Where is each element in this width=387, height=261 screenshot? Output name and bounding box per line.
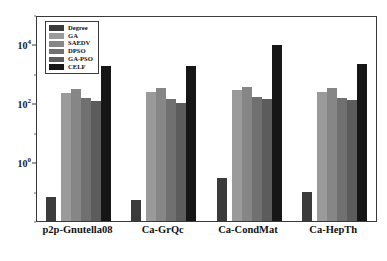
bar-dpso-ca-condmat [252, 97, 262, 221]
bar-saedv-ca-condmat [242, 87, 252, 221]
x-group-label-p2p-gnutella08: p2p-Gnutella08 [42, 224, 112, 235]
bar-degree-ca-grqc [131, 200, 141, 221]
bar-ga-p2p-gnutella08 [61, 93, 71, 221]
legend-item-ga-pso: GA-PSO [49, 56, 93, 63]
legend-swatch-icon [49, 41, 64, 47]
y-tick-label-10e4: 104 [18, 40, 32, 51]
bar-dpso-ca-hepth [337, 98, 347, 221]
bar-ga-pso-ca-hepth [347, 100, 357, 221]
x-group-label-ca-grqc: Ca-GrQc [142, 224, 184, 235]
legend-label: GA [68, 33, 78, 40]
bar-ga-ca-hepth [317, 92, 327, 221]
chart-figure: 104 102 100 p2p-Gnutella08Ca-GrQcCa-Cond… [0, 0, 387, 261]
x-group-label-ca-hepth: Ca-HepTh [309, 224, 357, 235]
bar-dpso-p2p-gnutella08 [81, 98, 91, 221]
bar-ga-pso-p2p-gnutella08 [91, 101, 101, 221]
bar-degree-p2p-gnutella08 [46, 197, 56, 221]
bar-celf-ca-grqc [186, 66, 196, 221]
legend-label: SAEDV [68, 40, 90, 47]
bar-degree-ca-condmat [217, 178, 227, 221]
legend-swatch-icon [49, 49, 64, 55]
legend-swatch-icon [49, 33, 64, 39]
legend-item-degree: Degree [49, 25, 93, 32]
bar-saedv-ca-grqc [156, 88, 166, 221]
bar-celf-p2p-gnutella08 [101, 66, 111, 221]
legend-swatch-icon [49, 25, 64, 31]
y-tick-label-10e2: 102 [18, 99, 32, 110]
x-axis: p2p-Gnutella08Ca-GrQcCa-CondMatCa-HepTh [36, 224, 377, 244]
legend-swatch-icon [49, 57, 64, 63]
bar-saedv-p2p-gnutella08 [71, 89, 81, 221]
chart-legend: DegreeGASAEDVDPSOGA-PSOCELF [45, 21, 99, 74]
bar-celf-ca-condmat [272, 45, 282, 221]
bar-dpso-ca-grqc [166, 99, 176, 221]
legend-swatch-icon [49, 64, 64, 70]
x-group-label-ca-condmat: Ca-CondMat [218, 224, 278, 235]
bar-ga-ca-condmat [232, 90, 242, 221]
legend-label: GA-PSO [68, 56, 93, 63]
legend-label: Degree [68, 25, 88, 32]
bar-saedv-ca-hepth [327, 88, 337, 221]
bar-degree-ca-hepth [302, 192, 312, 221]
legend-label: CELF [68, 64, 86, 71]
bar-ga-ca-grqc [146, 92, 156, 221]
bar-celf-ca-hepth [357, 64, 367, 221]
bar-ga-pso-ca-grqc [176, 103, 186, 221]
legend-label: DPSO [68, 48, 86, 55]
y-tick-label-10e0: 100 [18, 158, 32, 169]
legend-item-celf: CELF [49, 64, 93, 71]
bar-ga-pso-ca-condmat [262, 99, 272, 221]
y-axis: 104 102 100 [0, 16, 36, 222]
